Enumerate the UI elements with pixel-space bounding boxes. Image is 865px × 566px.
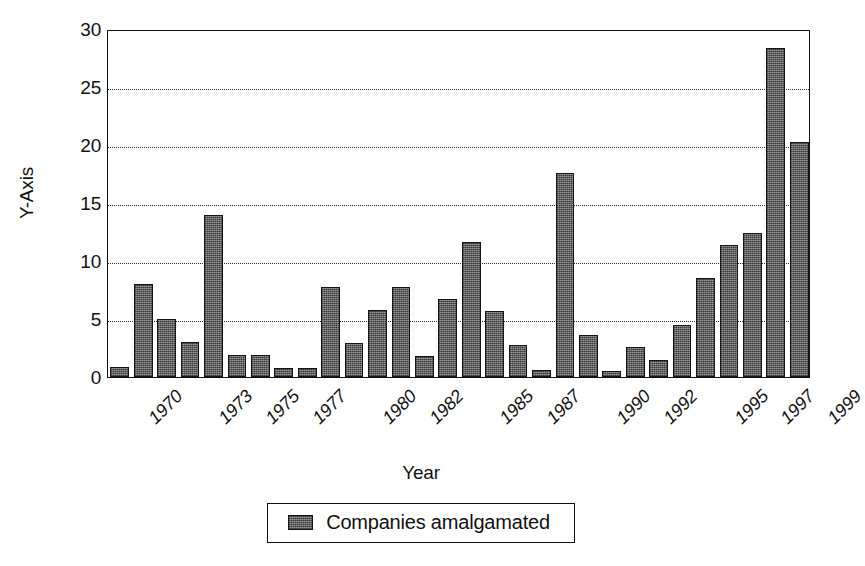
legend: Companies amalgamated: [0, 503, 842, 543]
bar: [649, 360, 668, 377]
y-axis-title: Y-Axis: [16, 133, 38, 253]
bar: [720, 245, 739, 377]
y-tick-label: 10: [57, 252, 101, 271]
x-tick-label: 1980: [379, 386, 422, 429]
bar: [157, 319, 176, 377]
x-tick-label: 1985: [496, 386, 539, 429]
plot-area: [107, 30, 810, 378]
bar: [392, 287, 411, 377]
y-tick-label: 5: [57, 310, 101, 329]
y-tick-label: 20: [57, 136, 101, 155]
bar: [110, 367, 129, 377]
legend-box: Companies amalgamated: [267, 503, 575, 543]
y-tick-label: 15: [57, 194, 101, 213]
x-tick-label: 1992: [660, 386, 703, 429]
bar: [532, 370, 551, 377]
legend-swatch-icon: [288, 515, 313, 530]
bar: [696, 278, 715, 377]
bar: [181, 342, 200, 377]
bar: [204, 215, 223, 377]
bar: [134, 284, 153, 377]
bar: [790, 142, 809, 377]
x-tick-label: 1990: [613, 386, 656, 429]
bar: [368, 310, 387, 377]
x-tick-label: 1973: [215, 386, 258, 429]
x-tick-label: 1995: [730, 386, 773, 429]
bar: [673, 325, 692, 377]
bar: [626, 347, 645, 377]
bar: [228, 355, 247, 377]
y-tick-label: 0: [57, 368, 101, 387]
bar: [251, 355, 270, 377]
x-tick-label: 1999: [824, 386, 865, 429]
bar: [743, 233, 762, 377]
bar: [415, 356, 434, 377]
bar: [509, 345, 528, 377]
bar: [438, 299, 457, 377]
x-tick-label: 1975: [261, 386, 304, 429]
bar: [298, 368, 317, 377]
x-tick-label: 1977: [308, 386, 351, 429]
bar: [602, 371, 621, 377]
y-tick-label: 25: [57, 78, 101, 97]
legend-item-label: Companies amalgamated: [326, 511, 550, 534]
bar: [579, 335, 598, 377]
bar: [462, 242, 481, 377]
bar: [556, 173, 575, 377]
x-tick-label: 1970: [144, 386, 187, 429]
bar: [321, 287, 340, 377]
x-axis-ticks: 1970197319751977198019821985198719901992…: [0, 386, 842, 466]
bar: [766, 48, 785, 377]
bars-layer: [108, 31, 809, 377]
x-tick-label: 1997: [777, 386, 820, 429]
y-tick-label: 30: [57, 20, 101, 39]
bar: [485, 311, 504, 377]
bar: [345, 343, 364, 377]
x-tick-label: 1987: [543, 386, 586, 429]
x-axis-title: Year: [0, 462, 842, 484]
x-tick-label: 1982: [425, 386, 468, 429]
bar: [274, 368, 293, 377]
